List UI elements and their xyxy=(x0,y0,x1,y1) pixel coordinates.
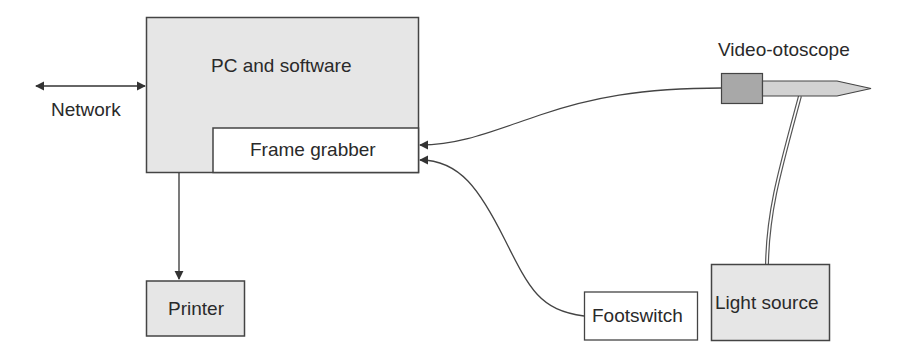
pc-label: PC and software xyxy=(211,55,351,77)
printer-label: Printer xyxy=(168,298,224,320)
footswitch-cable xyxy=(420,160,584,316)
light-fiber xyxy=(767,96,800,264)
otoscope-cable xyxy=(420,88,722,145)
otoscope-shaft xyxy=(763,81,872,96)
light-source-label: Light source xyxy=(715,292,819,314)
frame-grabber-label: Frame grabber xyxy=(250,139,376,161)
otoscope-label: Video-otoscope xyxy=(718,39,850,61)
footswitch-label: Footswitch xyxy=(592,305,683,327)
network-label: Network xyxy=(51,99,121,121)
otoscope-head xyxy=(722,74,763,104)
